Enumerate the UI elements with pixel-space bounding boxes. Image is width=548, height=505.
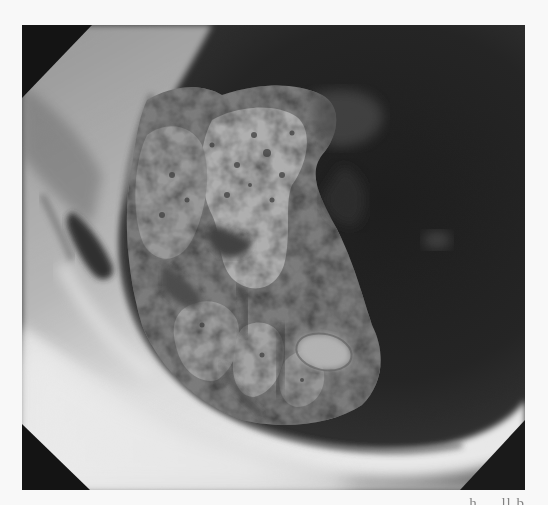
endoscopy-image-render — [22, 25, 525, 490]
caption-fragment: ... h ... ll b — [22, 496, 525, 505]
figure-page: ... h ... ll b — [0, 0, 548, 505]
endoscopy-image — [22, 25, 525, 490]
